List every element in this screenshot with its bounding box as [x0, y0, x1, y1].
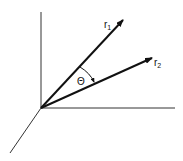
depth-axis [10, 108, 41, 153]
vector-r1 [41, 20, 123, 108]
r2-label: r2 [154, 57, 161, 69]
r1-label: r1 [104, 19, 111, 31]
vector-angle-diagram: Θ r1 r2 [0, 0, 183, 161]
vector-r2 [41, 58, 152, 108]
angle-label: Θ [77, 76, 85, 87]
